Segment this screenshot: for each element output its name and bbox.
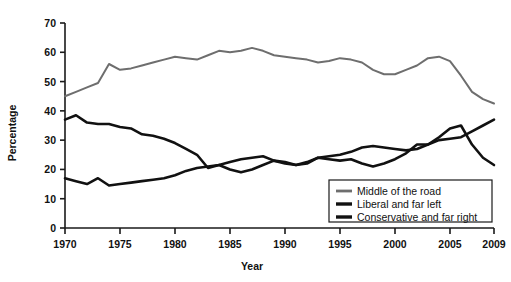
- y-axis-title: Percentage: [6, 105, 18, 162]
- x-tick-label-1980: 1980: [163, 238, 187, 250]
- y-tick-label-0: 0: [50, 222, 56, 234]
- legend-label-1: Liberal and far left: [357, 198, 441, 210]
- legend-label-2: Conservative and far right: [357, 211, 477, 223]
- x-tick-label-1985: 1985: [218, 238, 242, 250]
- x-tick-label-1995: 1995: [328, 238, 352, 250]
- y-tick-label-10: 10: [44, 193, 56, 205]
- x-tick-label-1975: 1975: [108, 238, 132, 250]
- y-tick-label-50: 50: [44, 76, 56, 88]
- x-tick-label-2009: 2009: [482, 238, 506, 250]
- y-tick-label-60: 60: [44, 46, 56, 58]
- y-tick-label-40: 40: [44, 105, 56, 117]
- x-tick-label-2005: 2005: [438, 238, 462, 250]
- y-tick-label-30: 30: [44, 134, 56, 146]
- y-tick-label-20: 20: [44, 163, 56, 175]
- chart-container: 010203040506070 197019751980198519901995…: [0, 0, 511, 282]
- x-tick-label-2000: 2000: [383, 238, 407, 250]
- line-chart: 010203040506070 197019751980198519901995…: [0, 0, 511, 282]
- chart-legend: Middle of the roadLiberal and far leftCo…: [329, 180, 492, 223]
- y-tick-label-70: 70: [44, 17, 56, 29]
- legend-label-0: Middle of the road: [357, 185, 441, 197]
- x-axis-title: Year: [241, 260, 263, 272]
- x-tick-label-1990: 1990: [273, 238, 297, 250]
- x-tick-label-1970: 1970: [53, 238, 77, 250]
